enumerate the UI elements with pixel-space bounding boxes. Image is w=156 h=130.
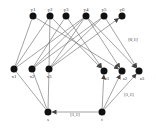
edge-y4-z2	[88, 19, 120, 68]
node-label-y3: y3	[64, 7, 70, 12]
flow-network-diagram: y1y2y3y4y5y6x1x2x3z1z2z3st [0,1][1,1][1,…	[0, 0, 156, 130]
node-s	[45, 109, 52, 116]
edge-x2-s	[33, 72, 46, 108]
node-label-z1: z1	[105, 76, 110, 81]
node-y2	[47, 13, 54, 20]
edge-t-z1	[102, 75, 104, 109]
node-y3	[63, 13, 70, 20]
edge-capacity-label: [0,1]	[128, 37, 138, 43]
edge-y4-z3	[88, 19, 136, 69]
edge-x1-y2	[16, 19, 48, 66]
node-z2	[119, 68, 126, 75]
node-label-x3: x3	[47, 74, 53, 79]
node-label-z3: z3	[140, 76, 145, 81]
edge-x3-y4	[51, 19, 84, 66]
edge-y5-z3	[106, 19, 137, 68]
node-t	[99, 109, 106, 116]
node-y5	[101, 13, 108, 20]
edge-capacity-label: [1,1]	[70, 112, 80, 118]
edge-x1-y1	[15, 20, 31, 66]
node-label-t: t	[101, 117, 103, 122]
node-x2	[29, 66, 36, 73]
node-label-y1: y1	[31, 7, 37, 12]
node-label-x1: x1	[12, 74, 18, 79]
edge-y3-z1	[68, 19, 102, 68]
node-y4	[83, 13, 90, 20]
node-z1	[101, 68, 108, 75]
node-label-x2: x2	[30, 74, 36, 79]
node-y6	[119, 13, 126, 20]
node-z3	[136, 68, 143, 75]
edge-x3-y6	[52, 18, 119, 67]
node-label-y2: y2	[48, 7, 54, 12]
node-label-y4: y4	[84, 7, 90, 12]
edge-x2-y5	[35, 18, 101, 67]
node-label-z2: z2	[123, 76, 128, 81]
node-label-s: s	[47, 117, 49, 122]
edge-capacity-label: [1,1]	[124, 92, 134, 98]
node-x3	[46, 66, 53, 73]
node-x1	[11, 66, 18, 73]
node-y1	[30, 13, 37, 20]
node-label-y5: y5	[102, 7, 108, 12]
node-label-y6: y6	[120, 7, 126, 12]
edges-layer	[15, 18, 137, 112]
